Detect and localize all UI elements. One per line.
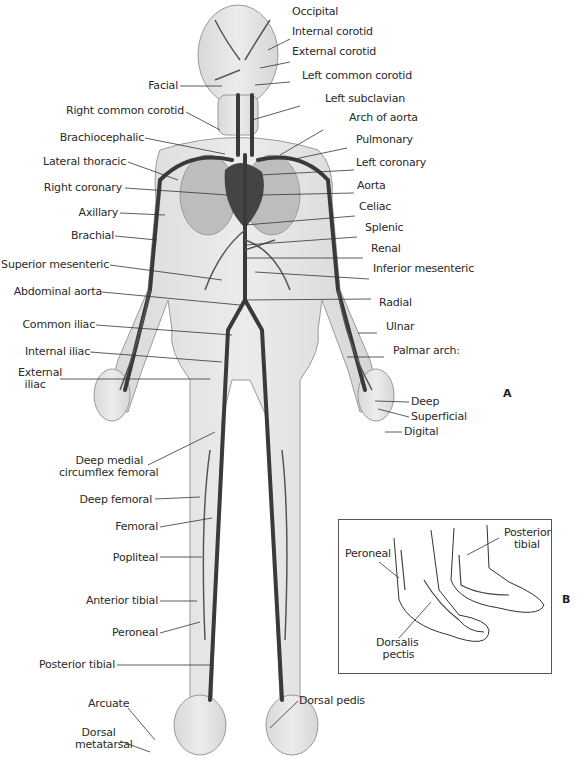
- label-palmar-arch: Palmar arch:: [393, 345, 460, 357]
- label-arcuate: Arcuate: [88, 698, 129, 710]
- label-femoral: Femoral: [115, 521, 158, 533]
- label-left-subclavian: Left subclavian: [325, 93, 405, 105]
- label-celiac: Celiac: [359, 201, 391, 213]
- label-pulmonary: Pulmonary: [356, 134, 413, 146]
- label-b-posterior-tibial: Posterior tibial: [504, 527, 551, 551]
- label-inferior-mesenteric: Inferior mesenteric: [373, 263, 474, 275]
- label-b-dorsalis-pectis: Dorsalis pectis: [376, 637, 418, 661]
- label-dorsal-pedis: Dorsal pedis: [299, 695, 365, 707]
- panel-letter-b: B: [562, 593, 570, 606]
- label-facial: Facial: [148, 80, 178, 92]
- panel-b-inset: Peroneal Posterior tibial Dorsalis pecti…: [338, 519, 552, 674]
- label-radial: Radial: [379, 297, 412, 309]
- label-ulnar: Ulnar: [386, 321, 414, 333]
- label-common-iliac: Common iliac: [22, 319, 95, 331]
- label-right-coronary: Right coronary: [44, 182, 122, 194]
- label-aorta: Aorta: [357, 180, 386, 192]
- label-digital: Digital: [404, 426, 438, 438]
- label-superior-mesenteric: Superior mesenteric: [1, 259, 109, 271]
- label-internal-iliac: Internal iliac: [25, 346, 90, 358]
- arterial-system-figure: Occipital Internal corotid External coro…: [0, 0, 584, 780]
- label-brachial: Brachial: [71, 230, 114, 242]
- label-posterior-tibial: Posterior tibial: [39, 659, 115, 671]
- panel-letter-a: A: [503, 387, 512, 400]
- label-lateral-thoracic: Lateral thoracic: [43, 156, 126, 168]
- label-deep-medial-circumflex-femoral: Deep medial circumflex femoral: [59, 455, 158, 479]
- label-anterior-tibial: Anterior tibial: [86, 595, 158, 607]
- label-popliteal: Popliteal: [113, 552, 158, 564]
- label-left-coronary: Left coronary: [356, 157, 426, 169]
- label-brachiocephalic: Brachiocephalic: [60, 132, 144, 144]
- label-renal: Renal: [371, 243, 401, 255]
- label-dorsal-metatarsal: Dorsal metatarsal: [75, 727, 133, 751]
- artery-paths: [125, 95, 365, 700]
- label-superficial: Superficial: [411, 411, 467, 423]
- label-occipital: Occipital: [292, 6, 338, 18]
- label-axillary: Axillary: [79, 207, 118, 219]
- label-arch-of-aorta: Arch of aorta: [349, 112, 418, 124]
- label-internal-carotid: Internal corotid: [292, 26, 373, 38]
- label-deep: Deep: [411, 396, 439, 408]
- label-external-carotid: External corotid: [292, 46, 376, 58]
- label-deep-femoral: Deep femoral: [80, 494, 153, 506]
- label-left-common-carotid: Left common corotid: [302, 70, 412, 82]
- label-external-iliac: External iliac: [18, 367, 62, 391]
- label-b-peroneal: Peroneal: [345, 548, 391, 560]
- label-abdominal-aorta: Abdominal aorta: [14, 286, 102, 298]
- label-right-common-carotid: Right common corotid: [66, 105, 184, 117]
- label-peroneal: Peroneal: [112, 627, 158, 639]
- label-splenic: Splenic: [365, 222, 403, 234]
